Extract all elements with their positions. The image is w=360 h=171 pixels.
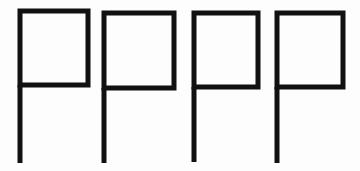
glyph-canvas-svg (0, 0, 360, 171)
handwriting-sample-canvas (0, 0, 360, 171)
